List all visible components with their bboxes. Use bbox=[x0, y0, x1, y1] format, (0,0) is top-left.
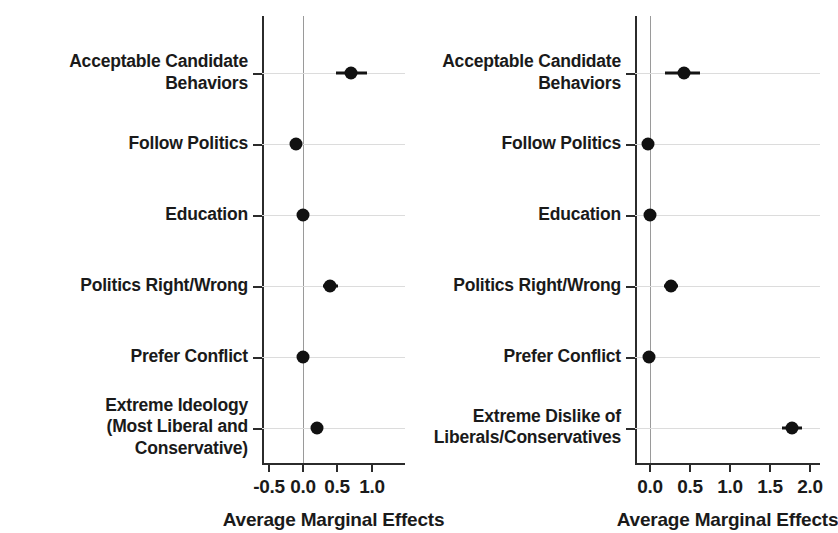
x-axis-tick bbox=[809, 463, 811, 472]
point-estimate-marker bbox=[324, 279, 337, 292]
point-estimate-marker bbox=[664, 279, 677, 292]
y-axis-tick bbox=[626, 73, 635, 75]
x-axis-tick-label: 0.0 bbox=[637, 476, 663, 498]
y-axis-tick bbox=[253, 73, 262, 75]
x-axis-line bbox=[262, 463, 405, 465]
gridline-row bbox=[262, 215, 405, 216]
category-label: Follow Politics bbox=[0, 133, 248, 155]
y-axis-tick bbox=[626, 286, 635, 288]
x-axis-tick-label: 2.0 bbox=[797, 476, 823, 498]
point-estimate-marker bbox=[290, 138, 303, 151]
gridline-row bbox=[262, 73, 405, 74]
x-axis-tick bbox=[649, 463, 651, 472]
panel-right: 0.00.51.01.52.0Average Marginal EffectsA… bbox=[412, 0, 825, 533]
x-axis-tick bbox=[729, 463, 731, 472]
y-axis-tick bbox=[253, 144, 262, 146]
category-label: Extreme Dislike of Liberals/Conservative… bbox=[412, 406, 621, 450]
point-estimate-marker bbox=[297, 209, 310, 222]
category-label: Prefer Conflict bbox=[412, 346, 621, 368]
y-axis-tick bbox=[253, 286, 262, 288]
plot-area-right: 0.00.51.01.52.0Average Marginal EffectsA… bbox=[412, 8, 825, 533]
x-axis-tick-label: 1.5 bbox=[757, 476, 783, 498]
x-axis-tick bbox=[371, 463, 373, 472]
x-axis-title: Average Marginal Effects bbox=[617, 509, 838, 531]
x-axis-tick-label: 0.5 bbox=[677, 476, 703, 498]
point-estimate-marker bbox=[297, 350, 310, 363]
category-label: Follow Politics bbox=[412, 133, 621, 155]
point-estimate-marker bbox=[310, 421, 323, 434]
x-axis-tick-label: 0.0 bbox=[290, 476, 316, 498]
point-estimate-marker bbox=[785, 421, 798, 434]
y-axis-tick bbox=[626, 215, 635, 217]
y-axis-tick bbox=[626, 428, 635, 430]
plot-area-left: -0.50.00.51.0Average Marginal EffectsAcc… bbox=[0, 8, 412, 533]
x-axis-tick-label: 1.0 bbox=[717, 476, 743, 498]
category-label: Prefer Conflict bbox=[0, 346, 248, 368]
x-axis-tick bbox=[689, 463, 691, 472]
point-estimate-marker bbox=[344, 67, 357, 80]
zero-reference-line bbox=[650, 16, 651, 463]
category-label: Acceptable Candidate Behaviors bbox=[0, 52, 248, 96]
gridline-row bbox=[262, 144, 405, 145]
category-label: Acceptable Candidate Behaviors bbox=[412, 52, 621, 96]
y-axis-line bbox=[635, 16, 637, 463]
x-axis-tick-label: 1.0 bbox=[359, 476, 385, 498]
category-label: Politics Right/Wrong bbox=[412, 275, 621, 297]
point-estimate-marker bbox=[642, 138, 655, 151]
x-axis-line bbox=[635, 463, 820, 465]
gridline-row bbox=[262, 428, 405, 429]
point-estimate-marker bbox=[644, 209, 657, 222]
category-label: Education bbox=[412, 204, 621, 226]
x-axis-tick-label: 0.5 bbox=[324, 476, 350, 498]
panel-left: -0.50.00.51.0Average Marginal EffectsAcc… bbox=[0, 0, 412, 533]
y-axis-tick bbox=[253, 357, 262, 359]
category-label: Education bbox=[0, 204, 248, 226]
y-axis-tick bbox=[253, 215, 262, 217]
y-axis-line bbox=[262, 16, 264, 463]
y-axis-tick bbox=[626, 357, 635, 359]
point-estimate-marker bbox=[643, 350, 656, 363]
category-label: Politics Right/Wrong bbox=[0, 275, 248, 297]
category-label: Extreme Ideology (Most Liberal and Conse… bbox=[0, 395, 248, 461]
y-axis-tick bbox=[626, 144, 635, 146]
x-axis-tick bbox=[268, 463, 270, 472]
y-axis-tick bbox=[253, 428, 262, 430]
gridline-row bbox=[635, 215, 820, 216]
x-axis-tick bbox=[336, 463, 338, 472]
gridline-row bbox=[262, 357, 405, 358]
x-axis-tick bbox=[302, 463, 304, 472]
x-axis-tick-label: -0.5 bbox=[253, 476, 285, 498]
x-axis-tick bbox=[769, 463, 771, 472]
gridline-row bbox=[635, 73, 820, 74]
gridline-row bbox=[635, 144, 820, 145]
point-estimate-marker bbox=[678, 67, 691, 80]
gridline-row bbox=[635, 357, 820, 358]
zero-reference-line bbox=[303, 16, 304, 463]
